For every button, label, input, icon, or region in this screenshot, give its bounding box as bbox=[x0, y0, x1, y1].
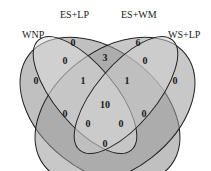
region-wnp-only: 0 bbox=[34, 75, 39, 86]
region-eslp-eswm-wslp: 1 bbox=[125, 75, 130, 86]
region-wnp-eslp-wslp: 0 bbox=[119, 118, 124, 129]
region-eslp-eswm: 3 bbox=[103, 52, 108, 63]
region-eslp-only: 0 bbox=[71, 37, 76, 48]
region-wnp-eslp: 0 bbox=[63, 55, 68, 66]
set-label-wnp: WNP bbox=[22, 29, 45, 40]
region-wnp-eslp-eswm: 1 bbox=[81, 75, 86, 86]
set-label-eslp: ES+LP bbox=[60, 9, 89, 20]
region-eslp-wslp: 0 bbox=[142, 108, 147, 119]
region-wnp-wslp: 0 bbox=[103, 138, 108, 149]
region-wslp-only: 0 bbox=[173, 75, 178, 86]
set-label-eswm: ES+WM bbox=[121, 9, 157, 20]
region-wnp-eswm: 0 bbox=[63, 108, 68, 119]
region-eswm-wslp: 0 bbox=[143, 55, 148, 66]
venn-diagram: WNP ES+LP ES+WM WS+LP 0 0 6 0 0 3 0 1 1 … bbox=[0, 0, 211, 171]
region-wnp-eswm-wslp: 0 bbox=[86, 118, 91, 129]
region-eswm-only: 6 bbox=[136, 37, 141, 48]
region-all-four: 10 bbox=[100, 99, 110, 110]
set-label-wslp: WS+LP bbox=[168, 29, 201, 40]
